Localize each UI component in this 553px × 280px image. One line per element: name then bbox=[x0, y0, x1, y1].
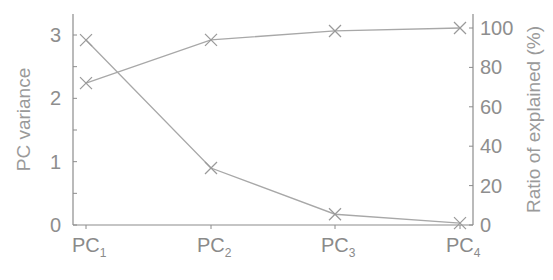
left-tick-label: 2 bbox=[50, 87, 61, 109]
left-axis-title: PC variance bbox=[13, 68, 34, 172]
right-tick-label: 40 bbox=[480, 135, 502, 157]
variance-line bbox=[86, 40, 460, 223]
right-tick-label: 0 bbox=[480, 214, 491, 236]
x-marker-icon bbox=[205, 162, 217, 174]
x-category-label: PC4 bbox=[446, 234, 481, 260]
x-category-label: PC3 bbox=[321, 234, 356, 260]
left-tick-label: 1 bbox=[50, 151, 61, 173]
left-tick-label: 3 bbox=[50, 24, 61, 46]
right-tick-label: 80 bbox=[480, 56, 502, 78]
x-marker-icon bbox=[80, 34, 92, 46]
series-lines bbox=[80, 22, 466, 229]
right-tick-label: 20 bbox=[480, 175, 502, 197]
left-tick-label: 0 bbox=[50, 214, 61, 236]
pca-variance-chart: 0123020406080100PC1PC2PC3PC4PC varianceR… bbox=[0, 0, 553, 280]
x-category-label: PC2 bbox=[197, 234, 232, 260]
right-tick-label: 100 bbox=[480, 17, 513, 39]
x-category-label: PC1 bbox=[72, 234, 107, 260]
x-marker-icon bbox=[80, 77, 92, 89]
right-axis-title: Ratio of explained (%) bbox=[523, 26, 544, 213]
right-tick-label: 60 bbox=[480, 96, 502, 118]
cumulative-ratio-line bbox=[86, 28, 460, 83]
axis-labels: 0123020406080100PC1PC2PC3PC4PC varianceR… bbox=[13, 17, 544, 260]
axes bbox=[73, 14, 473, 229]
